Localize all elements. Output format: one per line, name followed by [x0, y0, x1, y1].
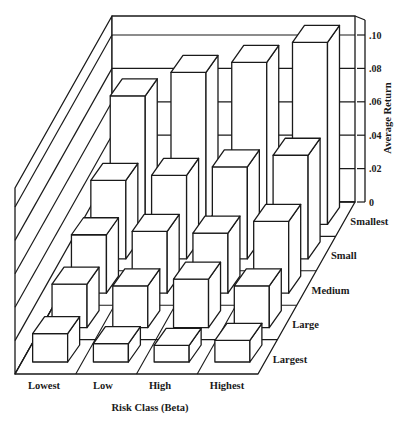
y-axis-title: Average Return — [382, 82, 393, 153]
depth-label-largest: Largest — [273, 354, 308, 365]
y-tick-label: .10 — [369, 30, 382, 41]
bar-front-face — [93, 344, 128, 362]
y-tick-label: 0 — [369, 197, 374, 208]
depth-label-smallest: Smallest — [350, 216, 388, 227]
bar-large-high — [174, 262, 221, 327]
bar-large-low — [113, 269, 160, 328]
x-axis-labels: LowestLowHighHighest — [28, 380, 245, 391]
y-tick-label: .06 — [369, 96, 382, 107]
bar-front-face — [33, 334, 68, 362]
x-label-high: High — [149, 380, 171, 391]
bar-front-face — [113, 286, 148, 328]
bar-front-face — [234, 286, 269, 328]
x-label-highest: Highest — [210, 380, 245, 391]
x-axis-title: Risk Class (Beta) — [111, 402, 189, 414]
y-tick-label: .04 — [369, 130, 382, 141]
depth-label-medium: Medium — [312, 285, 350, 296]
x-label-lowest: Lowest — [28, 380, 61, 391]
depth-label-small: Small — [331, 250, 357, 261]
y-tick-label: .08 — [369, 63, 382, 74]
bar-chart-3d: 0.02.04.06.08.10 SmallestSmallMediumLarg… — [0, 0, 405, 422]
bar-side-face — [327, 25, 339, 224]
bar-front-face — [154, 345, 189, 362]
y-tick-label: .02 — [369, 163, 382, 174]
x-label-low: Low — [93, 380, 113, 391]
y-axis: 0.02.04.06.08.10 — [355, 16, 382, 208]
bar-largest-lowest — [33, 317, 80, 362]
depth-label-large: Large — [292, 319, 319, 330]
bar-large-highest — [234, 269, 281, 328]
bar-front-face — [174, 279, 209, 327]
bar-front-face — [215, 340, 250, 362]
y-axis-top-connector — [355, 16, 365, 20]
bar-side-face — [308, 138, 320, 259]
